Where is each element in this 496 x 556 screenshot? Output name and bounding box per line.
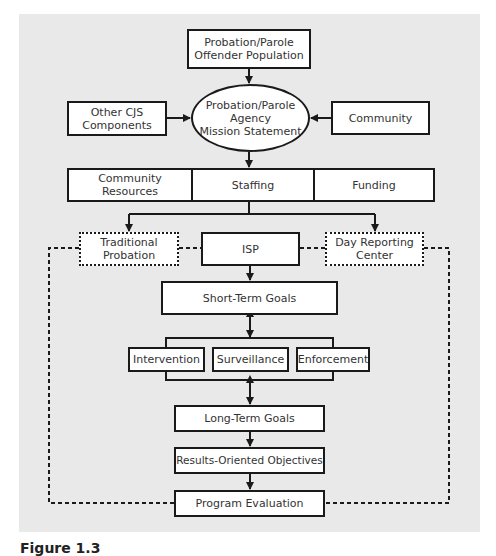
enforcement-node: Enforcement xyxy=(296,347,370,372)
offender-population-node: Probation/Parole Offender Population xyxy=(187,29,311,69)
figure-caption: Figure 1.3 xyxy=(20,540,100,556)
community-node: Community xyxy=(331,101,430,135)
long-term-goals-node: Long-Term Goals xyxy=(174,405,325,432)
intervention-node: Intervention xyxy=(128,347,205,372)
other-cjs-components-node: Other CJS Components xyxy=(67,101,167,136)
funding-cell: Funding xyxy=(313,170,433,200)
program-evaluation-node: Program Evaluation xyxy=(174,490,325,517)
resources-row: Community Resources Staffing Funding xyxy=(67,168,435,202)
results-oriented-objectives-node: Results-Oriented Objectives xyxy=(174,447,325,474)
day-reporting-center-node: Day Reporting Center xyxy=(325,232,424,266)
isp-node: ISP xyxy=(201,232,300,266)
surveillance-node: Surveillance xyxy=(212,347,289,372)
short-term-goals-node: Short-Term Goals xyxy=(161,281,338,315)
traditional-probation-node: Traditional Probation xyxy=(79,232,179,266)
staffing-cell: Staffing xyxy=(191,170,313,200)
mission-statement-node: Probation/Parole Agency Mission Statemen… xyxy=(191,84,310,152)
community-resources-cell: Community Resources xyxy=(69,170,191,200)
